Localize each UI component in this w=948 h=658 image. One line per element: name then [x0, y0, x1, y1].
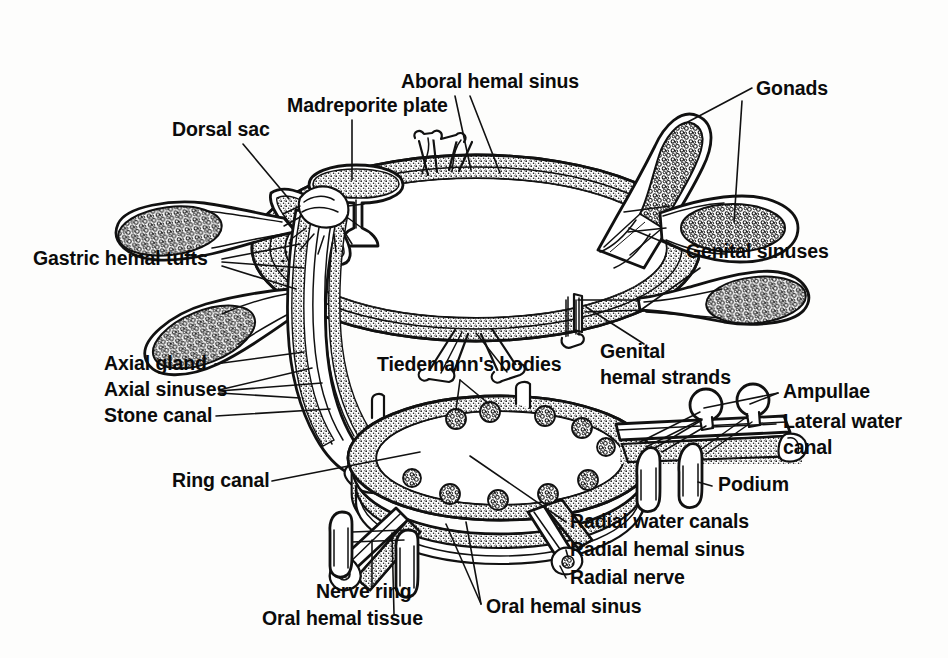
label-genital-hemal-strands-line1: Genital	[600, 340, 665, 362]
label-madreporite-plate: Madreporite plate	[287, 94, 448, 116]
label-dorsal-sac: Dorsal sac	[172, 118, 270, 140]
label-lateral-water-canal-line2: canal	[783, 436, 832, 458]
label-aboral-hemal-sinus: Aboral hemal sinus	[401, 70, 579, 92]
label-lateral-water-canal-line1: Lateral water	[783, 410, 903, 432]
tiedemanns-body	[440, 484, 460, 504]
label-ampullae: Ampullae	[783, 380, 870, 402]
anatomy-diagram: Aboral hemal sinus Madreporite plate Dor…	[0, 0, 948, 658]
tiedemanns-body	[535, 406, 555, 426]
label-gonads: Gonads	[756, 77, 828, 99]
label-oral-hemal-tissue: Oral hemal tissue	[262, 607, 423, 629]
label-ring-canal: Ring canal	[172, 469, 270, 491]
tiedemanns-body	[488, 490, 508, 510]
label-axial-sinuses: Axial sinuses	[104, 378, 228, 400]
label-axial-gland: Axial gland	[104, 352, 207, 374]
tiedemanns-body	[403, 469, 421, 487]
tiedemanns-body	[578, 470, 598, 490]
tiedemanns-body	[446, 409, 466, 429]
tiedemanns-body	[572, 418, 592, 438]
tiedemanns-body	[597, 438, 615, 456]
label-genital-hemal-strands-line2: hemal strands	[600, 366, 731, 388]
label-nerve-ring: Nerve ring	[316, 580, 411, 602]
figure-root: Aboral hemal sinus Madreporite plate Dor…	[0, 0, 948, 658]
label-stone-canal: Stone canal	[104, 404, 212, 426]
label-tiedemanns-bodies: Tiedemann's bodies	[377, 353, 562, 375]
podium	[330, 512, 352, 577]
label-genital-sinuses: Genital sinuses	[686, 240, 829, 262]
label-oral-hemal-sinus: Oral hemal sinus	[486, 595, 642, 617]
label-podium: Podium	[718, 473, 789, 495]
podium	[637, 448, 660, 512]
label-radial-nerve: Radial nerve	[570, 566, 685, 588]
tiedemanns-body	[480, 402, 500, 422]
label-radial-hemal-sinus: Radial hemal sinus	[570, 538, 745, 560]
podium	[679, 444, 702, 508]
label-radial-water-canals: Radial water canals	[570, 510, 749, 532]
label-gastric-hemal-tufts: Gastric hemal tufts	[33, 247, 208, 269]
